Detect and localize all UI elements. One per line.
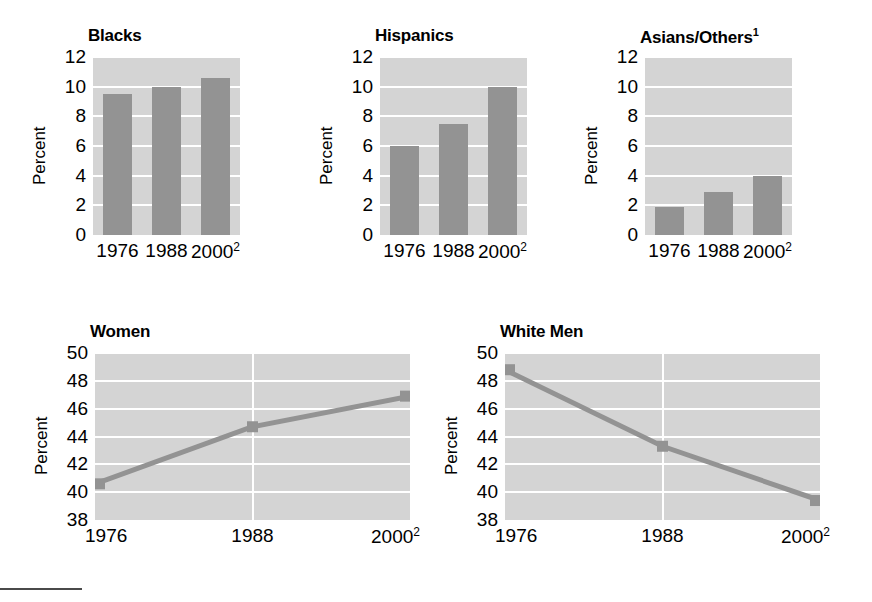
panel-title-text: Blacks: [88, 26, 142, 45]
line-path: [505, 370, 820, 501]
y-tick-label: 40: [48, 482, 88, 501]
panel-title-asians-others: Asians/Others1: [640, 26, 759, 48]
plot-area-white-men: [505, 353, 820, 520]
x-tick-label: 1976: [495, 526, 537, 545]
x-tick-text: 2000: [191, 241, 233, 262]
plot-area-hispanics: [380, 57, 527, 235]
data-point-marker: [657, 441, 668, 452]
y-tick-label: 48: [48, 371, 88, 390]
y-tick-label: 12: [333, 47, 373, 66]
x-tick-superscript: 2: [413, 525, 420, 539]
bar-1988: [704, 192, 733, 235]
data-point-marker: [505, 364, 515, 375]
panel-title-hispanics: Hispanics: [375, 26, 454, 46]
x-tick-text: 2000: [743, 241, 785, 262]
panel-title-women: Women: [90, 322, 150, 342]
x-tick-text: 2000: [478, 241, 520, 262]
x-tick-text: 1976: [495, 525, 537, 546]
y-tick-label: 12: [46, 47, 86, 66]
gridline-y-12: [380, 57, 527, 58]
x-tick-label: 20002: [723, 241, 813, 261]
panel-title-superscript: 1: [753, 26, 759, 38]
y-tick-label: 2: [46, 195, 86, 214]
y-tick-label: 2: [333, 195, 373, 214]
bar-2000: [488, 87, 517, 235]
plot-area-women: [95, 353, 410, 520]
y-tick-label: 8: [333, 106, 373, 125]
x-tick-text: 1976: [85, 525, 127, 546]
gridline-y-6: [645, 145, 792, 147]
x-tick-label: 1976: [85, 526, 127, 545]
series-line-women: [95, 353, 410, 520]
y-tick-label: 2: [598, 195, 638, 214]
plot-area-asians-others: [645, 57, 792, 235]
y-tick-label: 38: [458, 510, 498, 529]
y-tick-label: 44: [458, 427, 498, 446]
gridline-y-12: [93, 57, 240, 58]
bar-1976: [390, 146, 419, 235]
y-tick-label: 50: [48, 343, 88, 362]
panel-title-text: White Men: [500, 322, 583, 341]
y-tick-label: 6: [46, 136, 86, 155]
x-tick-label: 20002: [352, 526, 420, 546]
x-tick-superscript: 2: [520, 240, 527, 254]
y-tick-label: 50: [458, 343, 498, 362]
y-tick-label: 42: [458, 454, 498, 473]
x-tick-label: 1988: [208, 526, 298, 545]
y-tick-label: 10: [46, 77, 86, 96]
y-tick-label: 46: [458, 399, 498, 418]
y-tick-label: 6: [598, 136, 638, 155]
bar-1988: [439, 124, 468, 235]
data-point-marker: [810, 495, 820, 506]
bar-2000: [201, 78, 230, 235]
panel-title-blacks: Blacks: [88, 26, 142, 46]
y-tick-label: 38: [48, 510, 88, 529]
data-point-marker: [400, 391, 410, 402]
x-tick-superscript: 2: [785, 240, 792, 254]
y-tick-label: 12: [598, 47, 638, 66]
data-point-marker: [247, 421, 258, 432]
y-tick-label: 48: [458, 371, 498, 390]
x-tick-label: 20002: [171, 241, 261, 261]
y-tick-label: 4: [333, 166, 373, 185]
gridline-y-10: [645, 86, 792, 88]
series-line-white-men: [505, 353, 820, 520]
x-tick-label: 20002: [458, 241, 548, 261]
x-tick-superscript: 2: [233, 240, 240, 254]
y-tick-label: 4: [598, 166, 638, 185]
panel-title-text: Asians/Others: [640, 28, 753, 47]
plot-area-blacks: [93, 57, 240, 235]
y-tick-label: 42: [48, 454, 88, 473]
x-tick-superscript: 2: [823, 525, 830, 539]
y-tick-label: 10: [333, 77, 373, 96]
bar-1976: [103, 94, 132, 235]
bar-1988: [152, 87, 181, 235]
x-tick-text: 1988: [641, 525, 683, 546]
panel-title-text: Hispanics: [375, 26, 454, 45]
x-tick-label: 20002: [762, 526, 830, 546]
gridline-y-12: [645, 57, 792, 58]
footnote-separator-rule: [0, 588, 82, 590]
y-tick-label: 8: [46, 106, 86, 125]
y-tick-label: 40: [458, 482, 498, 501]
bar-2000: [753, 176, 782, 235]
data-point-marker: [95, 478, 105, 489]
panel-title-text: Women: [90, 322, 150, 341]
y-tick-label: 4: [46, 166, 86, 185]
y-tick-label: 10: [598, 77, 638, 96]
x-tick-text: 2000: [371, 526, 413, 547]
y-tick-label: 8: [598, 106, 638, 125]
line-path: [95, 396, 410, 484]
y-tick-label: 44: [48, 427, 88, 446]
bar-1976: [655, 207, 684, 235]
y-tick-label: 46: [48, 399, 88, 418]
y-tick-label: 6: [333, 136, 373, 155]
x-tick-label: 1988: [618, 526, 708, 545]
x-tick-text: 1988: [231, 525, 273, 546]
panel-title-white-men: White Men: [500, 322, 583, 342]
gridline-y-8: [645, 115, 792, 117]
x-tick-text: 2000: [781, 526, 823, 547]
